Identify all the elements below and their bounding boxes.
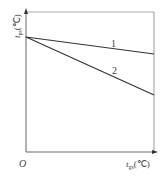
x-axis-label-unit: (℃) <box>134 159 150 169</box>
origin-label: O <box>19 158 26 169</box>
y-axis-label: tps(℃) <box>12 14 23 38</box>
svg-text:tgs(℃): tgs(℃) <box>126 159 150 170</box>
y-axis-arrow-icon <box>24 8 28 14</box>
svg-text:tps(℃): tps(℃) <box>12 14 23 38</box>
series-2-label: 2 <box>112 65 117 76</box>
x-axis-arrow-icon <box>152 150 158 154</box>
y-axis-label-unit: (℃) <box>12 14 22 30</box>
x-axis-label: tgs(℃) <box>126 159 150 170</box>
series-1-label: 1 <box>111 38 116 49</box>
chart: 1 2 O tps(℃) tgs(℃) <box>0 0 166 177</box>
